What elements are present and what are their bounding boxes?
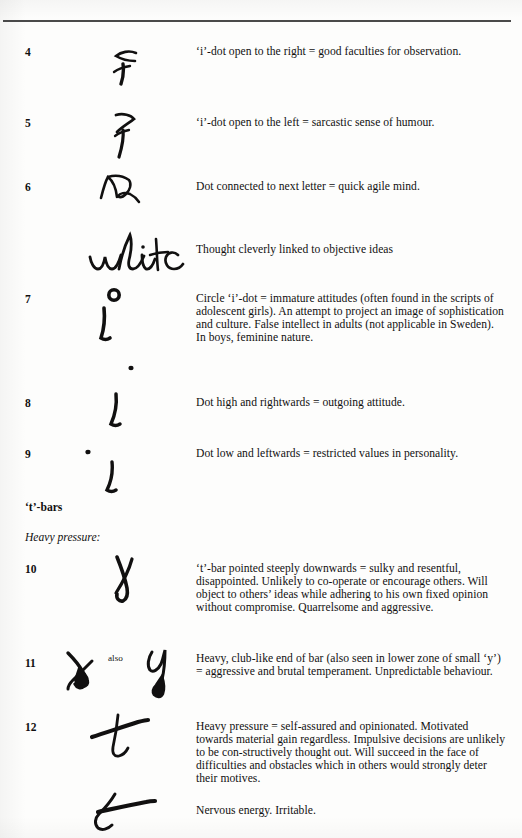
circle-i-dot-specimen bbox=[92, 286, 162, 376]
section-heading-t-bars: ‘t’-bars bbox=[25, 501, 62, 514]
dot-low-leftwards-specimen bbox=[80, 444, 140, 494]
nervous-energy-t-specimen bbox=[88, 788, 164, 836]
entry-description: Circle ‘i’-dot = immature attitudes (oft… bbox=[196, 292, 506, 344]
club-like-bar-specimen bbox=[62, 648, 106, 696]
entry-number: 11 bbox=[25, 658, 36, 670]
entry-description: Heavy, club-like end of bar (also seen i… bbox=[196, 652, 506, 678]
entry-description: Thought cleverly linked to objective ide… bbox=[196, 243, 506, 256]
document-page: 4 ‘i’-dot open to the right = good facul… bbox=[0, 0, 522, 838]
entry-number: 8 bbox=[25, 398, 31, 410]
subsection-heading-heavy-pressure: Heavy pressure: bbox=[25, 531, 100, 544]
entry-number: 9 bbox=[25, 449, 31, 461]
entry-description: ‘i’-dot open to the right = good faculti… bbox=[196, 45, 506, 58]
entry-number: 4 bbox=[25, 47, 31, 59]
entry-number: 6 bbox=[25, 182, 31, 194]
white-word-specimen bbox=[86, 225, 186, 281]
entry-description: ‘i’-dot open to the left = sarcastic sen… bbox=[196, 116, 506, 129]
heavy-pressure-t-specimen bbox=[88, 710, 160, 762]
specimen-connector-label: also bbox=[108, 653, 123, 663]
entry-number: 5 bbox=[25, 118, 31, 130]
header-divider-rule bbox=[3, 20, 511, 22]
entry-description: Nervous energy. Irritable. bbox=[196, 804, 506, 817]
y-lower-zone-specimen bbox=[140, 646, 190, 702]
entry-number: 12 bbox=[25, 722, 37, 734]
entry-number: 10 bbox=[25, 564, 37, 576]
i-dot-open-left-specimen bbox=[104, 105, 160, 161]
entry-description: Heavy pressure = self-assured and opinio… bbox=[196, 720, 506, 785]
dot-high-rightwards-specimen bbox=[98, 388, 144, 430]
entry-description: Dot connected to next letter = quick agi… bbox=[196, 180, 506, 193]
entry-number: 7 bbox=[25, 294, 31, 306]
entry-description: Dot low and leftwards = restricted value… bbox=[196, 447, 506, 460]
t-bar-pointed-downwards-specimen bbox=[104, 553, 154, 605]
dot-connected-next-letter-specimen bbox=[96, 168, 156, 210]
entry-description: ‘t’-bar pointed steeply downwards = sulk… bbox=[196, 562, 506, 614]
entry-description: Dot high and rightwards = outgoing attit… bbox=[196, 396, 506, 409]
i-dot-open-right-specimen bbox=[104, 40, 160, 86]
